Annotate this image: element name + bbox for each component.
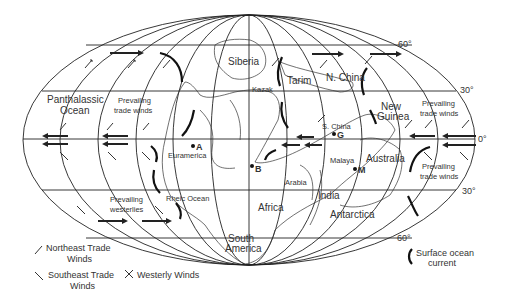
- label-siberia: Siberia: [228, 56, 260, 67]
- label-trade-winds-se-1: Prevailing: [422, 162, 455, 171]
- label-trade-winds-se-2: trade winds: [420, 172, 459, 181]
- ne-trade-legend-icon: [35, 246, 42, 254]
- point-g-label: G: [337, 130, 344, 140]
- label-euramerica: Euramerica: [168, 151, 207, 160]
- label-africa: Africa: [258, 202, 284, 213]
- legend-ne-trade-2: Winds: [67, 254, 93, 264]
- label-malaya: Malaya: [330, 156, 355, 165]
- region-labels: Siberia Kazak Tarim N. China S. China Ne…: [47, 56, 410, 254]
- label-trade-winds-e-2: trade winds: [420, 109, 459, 118]
- point-m-label: M: [358, 165, 366, 175]
- lat-60n-label: 60°: [398, 39, 412, 49]
- label-kazak: Kazak: [252, 85, 273, 94]
- label-westerlies-2: westerlies: [109, 205, 144, 214]
- point-a-marker: [191, 144, 195, 148]
- graticule: [23, 15, 475, 265]
- label-india: India: [318, 190, 340, 201]
- label-tarim: Tarim: [287, 75, 311, 86]
- label-westerlies-1: Prevailing: [110, 195, 143, 204]
- label-antarctica: Antarctica: [330, 209, 375, 220]
- point-labels: A B G M: [196, 130, 366, 175]
- legend-current-1: Surface ocean: [416, 248, 474, 258]
- point-b-label: B: [255, 164, 262, 174]
- label-new-guinea-2: Guinea: [377, 111, 410, 122]
- point-m-marker: [353, 167, 357, 171]
- easterly-trade-winds: [42, 133, 476, 148]
- lat-60s-label: 60°: [397, 233, 411, 243]
- label-australia: Australia: [366, 153, 405, 164]
- label-arabia: Arabia: [285, 178, 308, 187]
- legend-se-trade-1: Southeast Trade: [48, 270, 114, 280]
- se-trade-legend-icon: [35, 272, 43, 280]
- label-south-america-2: America: [225, 243, 262, 254]
- legend-se-trade-2: Winds: [70, 281, 96, 291]
- lat-30s-label: 30°: [462, 186, 476, 196]
- current-legend-icon: [409, 249, 412, 264]
- point-b-marker: [250, 164, 254, 168]
- legend-current-2: current: [428, 258, 457, 268]
- point-g-marker: [332, 132, 336, 136]
- paleogeographic-map: 60° 30° 0° 30° 60° Siberia Kazak Tarim N…: [0, 0, 511, 298]
- westerly-legend-icon: [125, 270, 133, 278]
- label-n-china: N. China: [326, 72, 365, 83]
- legend-westerly: Westerly Winds: [137, 270, 200, 280]
- label-rheic-ocean: Rheic Ocean: [166, 194, 209, 203]
- label-trade-winds-w-1: Prevailing: [118, 96, 151, 105]
- lat-0-label: 0°: [478, 134, 487, 144]
- label-trade-winds-w-2: trade winds: [114, 106, 153, 115]
- lat-30n-label: 30°: [460, 85, 474, 95]
- point-a-label: A: [196, 142, 203, 152]
- latitude-labels: 60° 30° 0° 30° 60°: [397, 39, 487, 243]
- label-panthalassic-2: Ocean: [60, 105, 89, 116]
- label-trade-winds-e-1: Prevailing: [422, 99, 455, 108]
- label-panthalassic-1: Panthalassic: [47, 94, 104, 105]
- legend-ne-trade-1: Northeast Trade: [46, 243, 111, 253]
